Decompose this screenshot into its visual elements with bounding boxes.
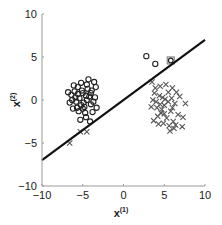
cross-marker	[152, 91, 157, 96]
plot-area	[65, 54, 188, 146]
circle-marker	[90, 109, 95, 114]
circle-marker	[144, 54, 149, 59]
y-tick-label: −5	[24, 137, 37, 149]
x-tick-label: 10	[199, 189, 211, 201]
cross-marker	[151, 118, 156, 123]
x-tick-label: 0	[120, 189, 126, 201]
cross-marker	[163, 82, 168, 87]
cross-marker	[167, 123, 172, 128]
cross-marker	[166, 90, 171, 95]
cross-marker	[176, 112, 181, 117]
circle-marker	[93, 85, 98, 90]
cross-marker	[156, 121, 161, 126]
cross-marker	[183, 101, 188, 106]
y-axis-label: x(2)	[9, 93, 22, 108]
cross-marker	[177, 94, 182, 99]
cross-marker	[180, 115, 185, 120]
cross-marker	[158, 84, 163, 89]
y-tick-label: 0	[31, 94, 37, 106]
cross-marker	[153, 85, 158, 90]
circle-marker	[94, 105, 99, 110]
axes: −10−50510−10−50510	[18, 8, 211, 201]
circle-marker	[78, 117, 83, 122]
cross-marker	[149, 104, 154, 109]
circle-marker	[153, 61, 158, 66]
cross-marker	[166, 99, 171, 104]
circle-marker	[86, 77, 91, 82]
x-tick-label: 5	[161, 189, 167, 201]
y-tick-label: −10	[18, 180, 37, 192]
cross-marker	[84, 129, 89, 134]
cross-marker	[174, 90, 179, 95]
x-tick-label: −5	[76, 189, 89, 201]
decision-boundary-line	[42, 40, 205, 160]
y-tick-label: 5	[31, 51, 37, 63]
series-class-circle	[65, 54, 157, 125]
x-axis-label: x(1)	[114, 206, 129, 219]
cross-marker	[161, 121, 166, 126]
cross-marker	[180, 124, 185, 129]
y-tick-label: 10	[25, 8, 37, 20]
circle-marker	[168, 58, 173, 63]
decision-boundary	[42, 40, 205, 160]
circle-marker	[92, 79, 97, 84]
scatter-chart: −10−50510−10−50510 x(1) x(2)	[0, 0, 222, 225]
